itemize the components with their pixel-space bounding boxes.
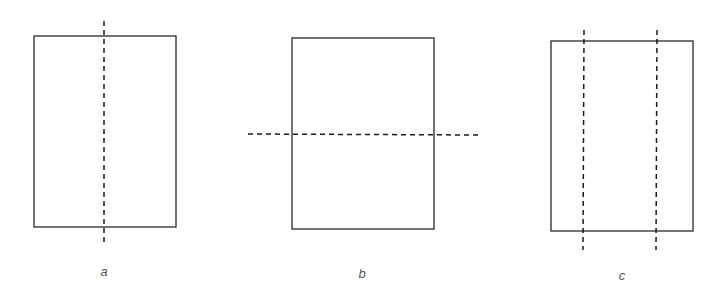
paper-sheet	[292, 38, 434, 229]
panel-label-a: a	[100, 264, 107, 279]
fold-line-horizontal	[248, 134, 479, 135]
fold-diagram	[0, 0, 722, 298]
fold-line-vertical	[656, 30, 657, 250]
panel-a	[34, 21, 176, 242]
paper-sheet	[551, 41, 693, 231]
paper-sheet	[34, 36, 176, 227]
fold-line-vertical	[583, 30, 584, 250]
panel-b	[248, 38, 479, 229]
panel-c	[551, 30, 693, 250]
panel-label-c: c	[619, 268, 626, 283]
panel-label-b: b	[358, 266, 365, 281]
